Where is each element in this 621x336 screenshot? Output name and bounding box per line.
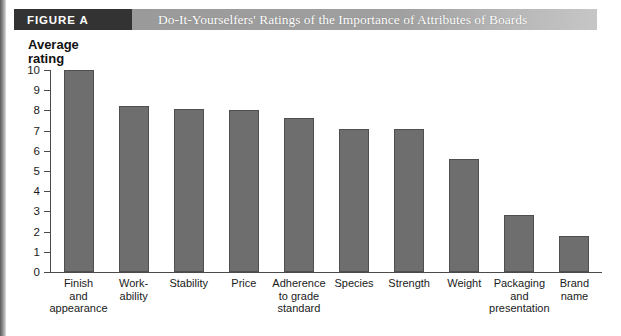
y-tick-label: 2 [20,227,40,238]
bar [504,215,534,272]
figure-banner: FIGURE A Do-It-Yourselfers' Ratings of t… [14,9,597,30]
y-axis-title: Average rating [28,38,79,66]
bar [174,109,204,272]
plot-area: 109876543210 [22,70,602,276]
y-tick-label: 0 [20,267,40,278]
x-category-label: Brand name [538,277,611,302]
y-tick [44,252,50,253]
bar [284,118,314,272]
y-tick-label: 8 [20,105,40,116]
bar [449,159,479,272]
bar [394,129,424,272]
y-tick-label: 3 [20,206,40,217]
figure-title: Do-It-Yourselfers' Ratings of the Import… [132,9,597,30]
y-tick [44,70,50,71]
y-tick-label: 4 [20,186,40,197]
x-axis-line [50,272,602,273]
figure-tag: FIGURE A [14,9,132,30]
y-tick-label: 6 [20,146,40,157]
y-tick [44,232,50,233]
y-tick [44,211,50,212]
y-tick-label: 1 [20,247,40,258]
bar [64,70,94,272]
bar-chart: Average rating 109876543210 Finish and a… [0,30,621,336]
y-tick-label: 7 [20,126,40,137]
y-tick [44,272,50,273]
y-tick [44,110,50,111]
bar [229,110,259,272]
bar [119,106,149,272]
y-tick-label: 9 [20,85,40,96]
y-tick [44,131,50,132]
bar [339,129,369,272]
bar [559,236,589,272]
y-tick [44,171,50,172]
bar-series [51,70,602,272]
y-tick [44,90,50,91]
y-tick [44,151,50,152]
y-tick [44,191,50,192]
x-axis-category-labels: Finish and appearanceWork- abilityStabil… [51,277,621,333]
y-tick-label: 10 [20,65,40,76]
y-tick-label: 5 [20,166,40,177]
